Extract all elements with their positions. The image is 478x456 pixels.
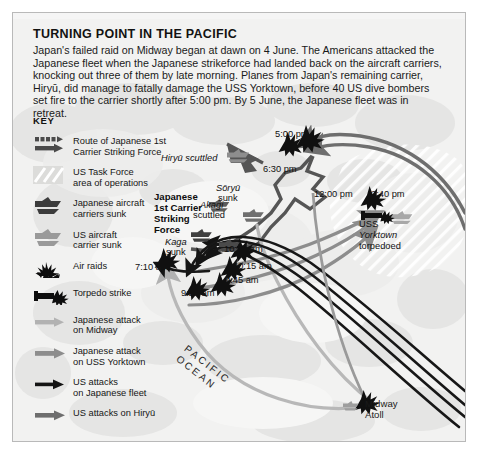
- hatched-area-icon: [33, 166, 73, 184]
- key-label-us-attacks-japanese-fleet: US attacks on Japanese fleet: [73, 376, 146, 398]
- label-uss: USS: [359, 219, 378, 229]
- time-9-45-am: 9:45 am: [225, 275, 259, 285]
- label-yorktown: Yorktown: [359, 230, 397, 240]
- key-label-japanese-attack-midway: Japanese attack on Midway: [73, 314, 141, 336]
- arrow-black-icon: [33, 376, 73, 394]
- torpedo-strike-icon: [33, 287, 73, 305]
- key-item-torpedo-strike: Torpedo strike: [33, 287, 183, 305]
- key-title: KEY: [33, 115, 183, 126]
- key-label-us-task-force-area: US Task Force area of operations: [73, 166, 148, 188]
- key-label-air-raids: Air raids: [73, 260, 107, 272]
- label-hiryu-scuttled: Hiryū scuttled: [161, 153, 217, 163]
- key-item-japanese-attack-yorktown: Japanese attack on USS Yorktown: [33, 345, 183, 367]
- time-7-10-am: 7:10 am: [135, 262, 169, 272]
- air-raid-icon: [33, 260, 73, 278]
- arrow-medium-icon: [33, 345, 73, 363]
- time-9-28-am: 9:28 am: [181, 288, 215, 298]
- time-12-00-pm: 12:00 pm: [314, 189, 353, 199]
- key-item-us-attacks-hiryu: US attacks on Hiryū: [33, 407, 183, 425]
- key-label-us-carrier-sunk: US aircraft carrier sunk: [73, 229, 122, 251]
- key-label-japanese-carriers-sunk: Japanese aircraft carriers sunk: [73, 197, 144, 219]
- key-label-japanese-route: Route of Japanese 1st Carrier Striking F…: [73, 135, 166, 157]
- key-item-us-attacks-japanese-fleet: US attacks on Japanese fleet: [33, 376, 183, 398]
- key-label-japanese-attack-yorktown: Japanese attack on USS Yorktown: [73, 345, 145, 367]
- intro-line-1: Japan's failed raid on Midway began at d…: [33, 44, 434, 56]
- intro-paragraph: Japan's failed raid on Midway began at d…: [33, 44, 445, 120]
- time-2-40-pm: 2:40 pm: [371, 189, 405, 199]
- infographic-page: TURNING POINT IN THE PACIFIC Japan's fai…: [0, 0, 478, 456]
- label-kaga-sunk: sunk: [166, 247, 186, 257]
- dashed-route-arrow-icon: [33, 135, 73, 153]
- header: TURNING POINT IN THE PACIFIC Japan's fai…: [13, 13, 465, 105]
- time-5-00-pm: 5:00 pm: [275, 129, 309, 139]
- label-akagi-scuttled: scuttled: [193, 210, 225, 220]
- arrow-light-icon: [33, 314, 73, 332]
- label-kaga: Kaga: [165, 237, 187, 247]
- time-10-25-am: 10:25 am: [224, 244, 263, 254]
- label-torpedoed: torpedoed: [359, 241, 401, 251]
- map-frame: TURNING POINT IN THE PACIFIC Japan's fai…: [12, 12, 466, 442]
- key-item-japanese-attack-midway: Japanese attack on Midway: [33, 314, 183, 336]
- label-akagi: Akagi: [200, 200, 223, 210]
- label-soryu: Sōryū: [216, 183, 240, 193]
- japanese-carrier-sunk-icon: [33, 197, 73, 215]
- arrow-dark-gray-icon: [33, 407, 73, 425]
- intro-line-2: Japanese fleet when the Japanese strikef…: [33, 57, 442, 69]
- key-label-us-attacks-hiryu: US attacks on Hiryū: [73, 407, 155, 419]
- time-6-30-pm: 6:30 pm: [263, 164, 297, 174]
- page-title: TURNING POINT IN THE PACIFIC: [33, 27, 237, 41]
- key-label-torpedo-strike: Torpedo strike: [73, 287, 131, 299]
- key-item-us-task-force-area: US Task Force area of operations: [33, 166, 183, 188]
- us-carrier-sunk-icon: [33, 229, 73, 247]
- time-10-15-am: 10:15 am: [233, 261, 272, 271]
- midway-atoll-label: Midway Atoll: [365, 399, 398, 420]
